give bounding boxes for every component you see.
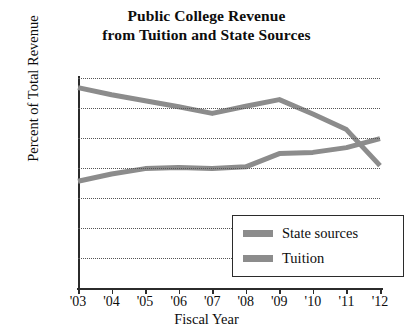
- legend-label-tuition: Tuition: [282, 251, 324, 266]
- x-axis-tick-label: '12: [360, 294, 400, 310]
- gridline: [78, 108, 380, 109]
- gridline: [78, 138, 380, 139]
- legend-label-state-sources: State sources: [282, 226, 358, 241]
- legend-swatch-state-sources: [243, 230, 273, 237]
- series-line-tuition: [78, 139, 380, 182]
- gridline: [78, 78, 380, 79]
- legend-swatch-tuition: [243, 255, 273, 262]
- series-line-state-sources: [78, 88, 380, 166]
- x-axis-line: [77, 288, 383, 290]
- legend-item-state-sources: State sources: [243, 221, 403, 246]
- gridline: [78, 198, 380, 199]
- chart-legend: State sources Tuition: [232, 215, 404, 277]
- gridline: [78, 168, 380, 169]
- legend-item-tuition: Tuition: [243, 246, 403, 271]
- x-axis-title: Fiscal Year: [0, 311, 413, 328]
